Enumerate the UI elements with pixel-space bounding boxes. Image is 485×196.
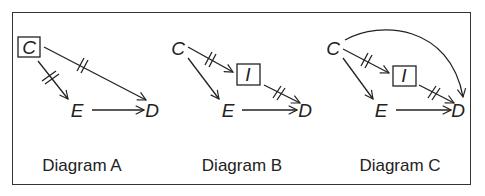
blocked-mark-c-i <box>361 53 372 68</box>
edge-i-d <box>264 85 300 103</box>
node-e: E <box>375 100 388 121</box>
node-c: C <box>22 37 36 58</box>
caption-diagram-c: Diagram C <box>359 156 440 175</box>
node-e: E <box>71 100 84 121</box>
diagram-a: C E D Diagram A <box>18 37 159 175</box>
diagrams-canvas: C E D Diagram A C I E D <box>0 0 485 196</box>
node-c: C <box>171 38 185 59</box>
edge-c-e <box>343 58 373 99</box>
diagram-b: C I E D Diagram B <box>171 38 312 175</box>
node-e: E <box>222 100 235 121</box>
node-c: C <box>326 38 340 59</box>
node-i: I <box>245 64 251 85</box>
edge-c-e <box>188 58 219 99</box>
edge-c-i <box>188 47 233 72</box>
node-d: D <box>145 100 159 121</box>
diagram-c: C I E D Diagram C <box>326 30 465 175</box>
edge-c-i <box>343 49 389 73</box>
caption-diagram-a: Diagram A <box>42 156 122 175</box>
caption-diagram-b: Diagram B <box>202 156 282 175</box>
edge-c-d <box>44 47 146 100</box>
node-i: I <box>401 65 407 86</box>
node-d: D <box>298 100 312 121</box>
